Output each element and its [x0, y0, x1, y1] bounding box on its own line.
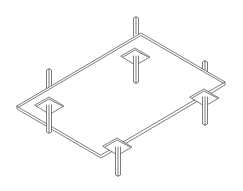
upper-post-top — [134, 17, 139, 36]
plate-with-standoffs-drawing — [0, 0, 243, 191]
pad-post-right — [190, 89, 219, 125]
diagram-canvas — [0, 0, 243, 191]
pad-post-bottom — [103, 138, 132, 176]
